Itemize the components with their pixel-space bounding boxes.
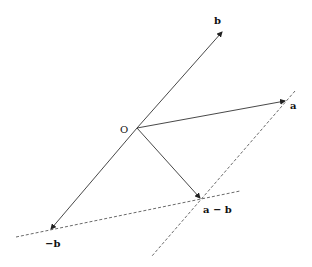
vector-diagram: O b a −b a − b [0,0,312,267]
diagram-canvas: O b a −b a − b [0,0,312,267]
vector-a-minus-b [137,128,200,198]
label-neg-b: −b [45,238,60,249]
vector-neg-b [51,128,137,229]
label-a-minus-b: a − b [203,204,232,215]
label-b: b [214,15,221,26]
label-origin: O [120,124,128,135]
dashed-line-through-a [152,91,295,256]
vector-b [137,32,222,128]
vector-a [137,101,285,128]
label-a: a [290,100,297,111]
